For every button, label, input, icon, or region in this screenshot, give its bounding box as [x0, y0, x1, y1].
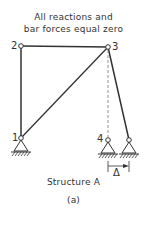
member-2-3	[21, 46, 108, 47]
node-label-3: 3	[112, 42, 118, 52]
node-label-4: 4	[97, 134, 103, 144]
joint-5	[127, 138, 132, 143]
joint-3	[106, 45, 111, 50]
member-1-3	[21, 47, 108, 138]
structure-title: Structure A	[0, 177, 147, 188]
joint-1	[19, 136, 24, 141]
member-3-5	[108, 47, 129, 140]
figure-subtitle: (a)	[0, 195, 147, 206]
node-label-2: 2	[11, 41, 17, 51]
node-label-1: 1	[12, 133, 18, 143]
joint-4	[106, 138, 111, 143]
arrow-right-icon	[123, 164, 129, 168]
joint-2	[19, 44, 24, 49]
pin-support-displaced	[119, 142, 139, 158]
pin-support-4	[98, 142, 118, 158]
